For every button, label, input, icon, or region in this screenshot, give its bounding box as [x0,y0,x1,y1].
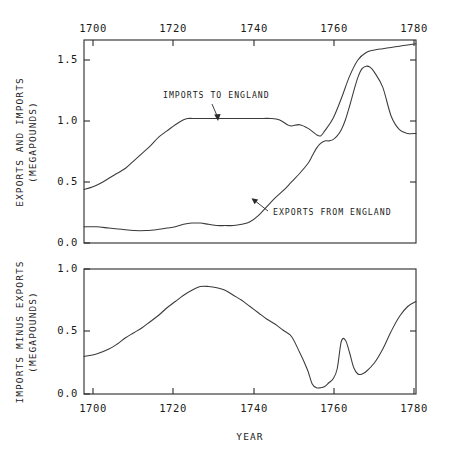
top-xtick-label-1700: 1700 [79,22,107,34]
bottom-xtick-label-1700: 1700 [79,402,107,414]
top-xtick-label-1760: 1760 [320,22,348,34]
bottom-ytick-label-0-5: 0.5 [57,324,78,336]
top-ytick-label-0-0: 0.0 [57,236,78,248]
top-xtick-label-1780: 1780 [400,22,428,34]
exports-annotation-arrowhead-icon [252,198,259,204]
top-ytick-label-0-5: 0.5 [57,175,78,187]
top-xtick-label-1740: 1740 [240,22,268,34]
top-panel-x-ticks [93,40,414,46]
imports-to-england-curve [84,44,416,190]
chart-svg: 1700 1720 1740 1760 1780 0.0 0.5 1.0 [0,0,451,457]
top-ylabel-line1: EXPORTS AND IMPORTS [14,77,25,207]
bottom-xtick-label-1720: 1720 [159,402,187,414]
bottom-panel-x-ticklabels: 1700 1720 1740 1760 1780 [79,402,428,414]
bottom-ylabel-line2: (MEGAPOUNDS) [27,291,38,373]
bottom-ylabel-line1: IMPORTS MINUS EXPORTS [14,260,25,403]
bottom-ytick-label-1-0: 1.0 [57,262,78,274]
figure-container: 1700 1720 1740 1760 1780 0.0 0.5 1.0 [0,0,451,457]
bottom-xtick-label-1740: 1740 [240,402,268,414]
bottom-panel-y-axis-title: IMPORTS MINUS EXPORTS (MEGAPOUNDS) [14,260,38,403]
imports-annotation-arrowhead-icon [214,114,220,121]
top-panel: 1700 1720 1740 1760 1780 0.0 0.5 1.0 [14,22,428,248]
imports-annotation-label: IMPORTS TO ENGLAND [163,90,270,100]
top-panel-y-ticklabels: 0.0 0.5 1.0 1.5 [57,53,78,248]
bottom-panel-y-ticklabels: 0.0 0.5 1.0 [57,262,78,399]
top-xtick-label-1720: 1720 [159,22,187,34]
bottom-panel-x-ticks [93,388,414,394]
top-ytick-label-1-5: 1.5 [57,53,78,65]
top-panel-x-ticklabels: 1700 1720 1740 1760 1780 [79,22,428,34]
top-panel-y-axis-title: EXPORTS AND IMPORTS (MEGAPOUNDS) [14,77,38,207]
bottom-ytick-label-0-0: 0.0 [57,387,78,399]
top-ytick-label-1-0: 1.0 [57,114,78,126]
top-ylabel-line2: (MEGAPOUNDS) [27,101,38,183]
exports-annotation-label: EXPORTS FROM ENGLAND [273,207,392,217]
bottom-xtick-label-1760: 1760 [320,402,348,414]
imports-minus-exports-curve [84,286,416,388]
bottom-xtick-label-1780: 1780 [400,402,428,414]
bottom-panel-frame [84,269,416,394]
bottom-xaxis-title: YEAR [236,431,263,442]
bottom-panel-y-ticks [84,269,416,394]
imports-annotation: IMPORTS TO ENGLAND [163,90,270,121]
bottom-panel: 1700 1720 1740 1760 1780 0.0 0.5 1.0 IMP… [14,260,428,442]
